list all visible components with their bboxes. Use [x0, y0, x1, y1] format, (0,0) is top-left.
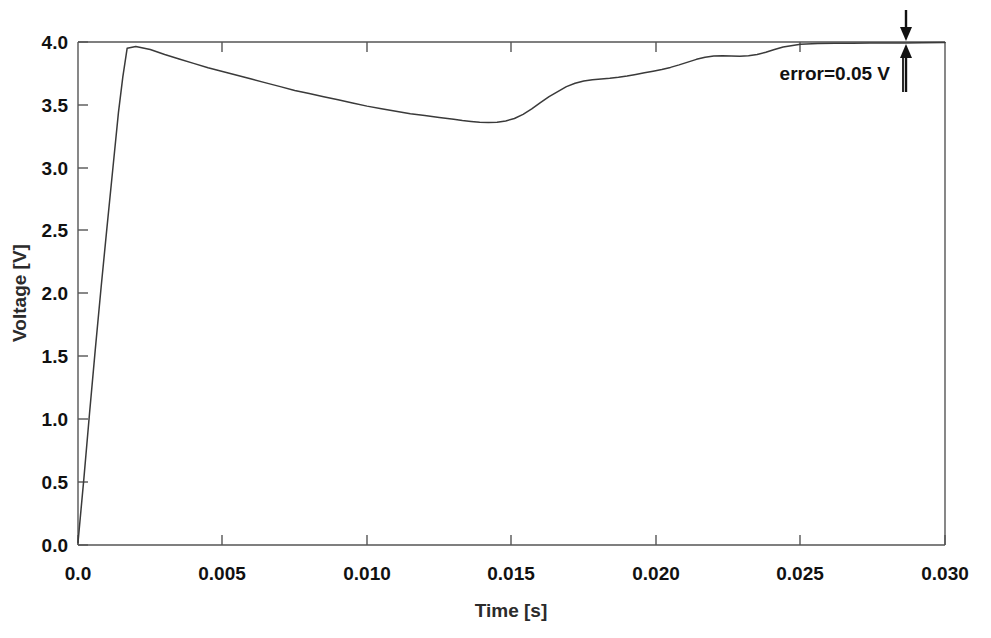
- y-tick-label: 2.5: [42, 220, 69, 241]
- x-tick-labels: 0.0 0.005 0.010 0.015 0.020 0.025 0.030: [65, 563, 969, 584]
- voltage-curve: [78, 43, 945, 543]
- y-tick-label: 2.0: [42, 283, 68, 304]
- x-tick-marks: [78, 42, 945, 545]
- x-tick-label: 0.010: [343, 563, 391, 584]
- chart-figure: 4.0 3.5 3.0 2.5 2.0 1.5 1.0 0.5 0.0 0.0 …: [0, 0, 991, 638]
- x-tick-label: 0.015: [487, 563, 535, 584]
- x-tick-label: 0.005: [198, 563, 246, 584]
- y-tick-label: 1.5: [42, 346, 69, 367]
- arrow-up-head: [900, 44, 912, 58]
- y-axis-title: Voltage [V]: [9, 244, 30, 342]
- y-tick-marks: [78, 42, 88, 545]
- y-tick-label: 3.0: [42, 158, 68, 179]
- y-tick-label: 1.0: [42, 409, 68, 430]
- y-tick-label: 4.0: [42, 32, 68, 53]
- x-axis-title: Time [s]: [475, 600, 548, 621]
- x-tick-label: 0.025: [776, 563, 824, 584]
- y-tick-labels: 4.0 3.5 3.0 2.5 2.0 1.5 1.0 0.5 0.0: [42, 32, 69, 556]
- arrow-down-head: [900, 27, 912, 41]
- y-tick-label: 0.5: [42, 472, 69, 493]
- voltage-vs-time-chart: 4.0 3.5 3.0 2.5 2.0 1.5 1.0 0.5 0.0 0.0 …: [0, 0, 991, 638]
- x-tick-label: 0.020: [632, 563, 680, 584]
- plot-axes: [78, 42, 945, 545]
- y-tick-label: 3.5: [42, 95, 69, 116]
- y-tick-label: 0.0: [42, 535, 68, 556]
- x-tick-label: 0.0: [65, 563, 91, 584]
- x-tick-label: 0.030: [921, 563, 969, 584]
- error-annotation-label: error=0.05 V: [780, 63, 891, 84]
